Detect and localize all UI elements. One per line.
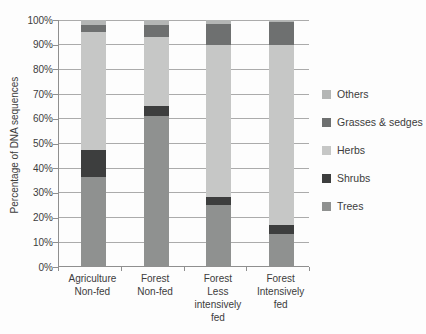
x-axis-tick [121,267,122,271]
bar-forest-intensively-fed [269,20,294,266]
y-tick-label-10: 10% [13,237,53,248]
segment-forest-intensively-fed-trees [269,234,294,266]
legend-swatch-trees [322,202,331,211]
legend-item-grasses-sedges: Grasses & sedges [322,108,423,136]
segment-agriculture-non-fed-trees [81,177,106,266]
y-tick-label-50: 50% [13,138,53,149]
plot-area [58,20,309,267]
segment-agriculture-non-fed-grasses-sedges [81,25,106,32]
segment-forest-intensively-fed-others [269,20,294,22]
y-axis-tick [53,168,58,169]
x-label-line: Forest [120,272,190,285]
x-label-line: Forest [246,272,316,285]
y-tick-label-40: 40% [13,163,53,174]
y-axis-tick [53,193,58,194]
y-tick-label-0: 0% [13,262,53,273]
y-axis-tick [53,69,58,70]
legend-label-others: Others [337,88,369,100]
segment-forest-non-fed-trees [144,116,169,266]
y-axis-tick [53,94,58,95]
bar-agriculture-non-fed [81,20,106,266]
segment-forest-non-fed-grasses-sedges [144,25,169,37]
segment-forest-intensively-fed-herbs [269,45,294,226]
x-axis-tick [246,267,247,271]
bar-forest-less-intensively-fed [206,20,231,266]
segment-agriculture-non-fed-shrubs [81,150,106,177]
y-tick-label-70: 70% [13,89,53,100]
legend-swatch-others [322,90,331,99]
stacked-bar-chart: Percentage of DNA sequences 0%10%20%30%4… [0,0,426,334]
legend-swatch-herbs [322,146,331,155]
y-tick-label-20: 20% [13,212,53,223]
x-label-line: Non-fed [57,285,127,298]
legend-label-shrubs: Shrubs [337,172,370,184]
segment-forest-less-intensively-fed-herbs [206,45,231,198]
y-axis-tick [53,20,58,21]
segment-forest-non-fed-shrubs [144,106,169,116]
x-label-line: Less [183,285,253,298]
x-label-line: Non-fed [120,285,190,298]
legend-item-trees: Trees [322,192,423,220]
y-axis-tick [53,242,58,243]
segment-agriculture-non-fed-others [81,20,106,25]
y-axis-tick [53,119,58,120]
legend: OthersGrasses & sedgesHerbsShrubsTrees [322,80,423,220]
bar-forest-non-fed [144,20,169,266]
y-tick-label-30: 30% [13,187,53,198]
x-axis-tick [309,267,310,271]
x-axis-tick [184,267,185,271]
legend-swatch-shrubs [322,174,331,183]
legend-label-trees: Trees [337,200,363,212]
segment-forest-non-fed-others [144,20,169,25]
x-label-line: Agriculture [57,272,127,285]
x-axis-tick [58,267,59,271]
y-tick-label-80: 80% [13,64,53,75]
y-tick-label-60: 60% [13,113,53,124]
x-label-forest-intensively-fed: ForestIntensivelyfed [246,272,316,311]
legend-label-herbs: Herbs [337,144,365,156]
x-label-agriculture-non-fed: AgricultureNon-fed [57,272,127,298]
segment-forest-less-intensively-fed-shrubs [206,197,231,204]
segment-forest-non-fed-herbs [144,37,169,106]
y-tick-label-90: 90% [13,39,53,50]
segment-agriculture-non-fed-herbs [81,32,106,150]
legend-label-grasses-sedges: Grasses & sedges [337,116,423,128]
y-axis-tick [53,45,58,46]
legend-item-shrubs: Shrubs [322,164,423,192]
segment-forest-intensively-fed-grasses-sedges [269,22,294,44]
segment-forest-less-intensively-fed-grasses-sedges [206,24,231,45]
x-label-forest-non-fed: ForestNon-fed [120,272,190,298]
segment-forest-less-intensively-fed-others [206,20,231,24]
y-axis-tick [53,144,58,145]
legend-swatch-grasses-sedges [322,118,331,127]
legend-item-herbs: Herbs [322,136,423,164]
segment-forest-less-intensively-fed-trees [206,205,231,267]
x-label-forest-less-intensively-fed: ForestLessintensivelyfed [183,272,253,324]
x-label-line: fed [183,311,253,324]
legend-item-others: Others [322,80,423,108]
y-axis-tick [53,218,58,219]
x-label-line: intensively [183,298,253,311]
x-label-line: Intensively [246,285,316,298]
y-tick-label-100: 100% [13,15,53,26]
segment-forest-intensively-fed-shrubs [269,225,294,234]
x-label-line: Forest [183,272,253,285]
x-label-line: fed [246,298,316,311]
